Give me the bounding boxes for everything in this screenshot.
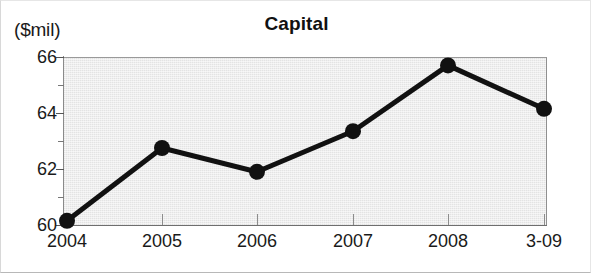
data-point-2005 bbox=[154, 140, 170, 156]
data-point-2008 bbox=[440, 57, 456, 73]
data-point-2007 bbox=[345, 123, 361, 139]
data-point-2006 bbox=[249, 164, 265, 180]
data-point-3-09 bbox=[536, 101, 552, 117]
data-point-2004 bbox=[59, 213, 75, 229]
series-markers bbox=[59, 57, 552, 228]
series-line-capital bbox=[67, 65, 544, 220]
chart-figure: ($mil) Capital 66 64 62 60 2004 2005 200… bbox=[0, 0, 591, 273]
series-plot bbox=[1, 1, 591, 273]
